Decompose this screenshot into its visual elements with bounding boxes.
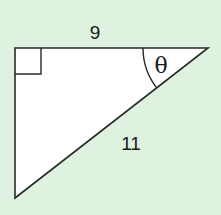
right-triangle	[15, 48, 208, 198]
angle-label-theta: θ	[154, 55, 167, 77]
triangle-diagram: 9 11 θ	[0, 0, 221, 215]
triangle-svg	[0, 0, 221, 215]
side-label-top: 9	[90, 23, 101, 42]
side-label-hypotenuse: 11	[121, 134, 141, 153]
